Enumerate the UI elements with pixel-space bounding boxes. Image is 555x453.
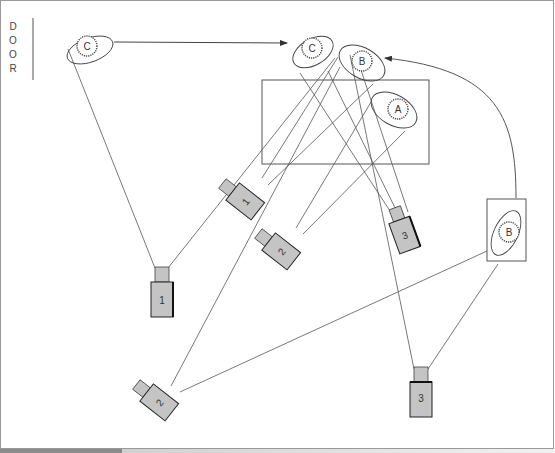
person-label: C (83, 41, 90, 52)
camera-2-angled: 2 (252, 225, 301, 270)
person-label: B (359, 56, 366, 67)
person-b-end: B (333, 38, 391, 89)
person-b-start: B (485, 206, 527, 260)
camera-lens-icon (155, 267, 169, 282)
movement-arrow-c (114, 42, 287, 43)
person-label: A (395, 104, 402, 115)
camera-label: 3 (418, 393, 424, 404)
camera-3-angled: 3 (384, 204, 420, 254)
person-c-start: C (63, 31, 116, 70)
camera-2-bottom: 2 (130, 376, 179, 421)
bottom-edge-bar (0, 449, 555, 453)
sight-lines (68, 49, 498, 392)
person-label: B (506, 227, 513, 238)
person-label: C (308, 43, 315, 54)
camera-lens-icon (414, 367, 428, 382)
camera-3-bottom: 3 (410, 367, 432, 417)
camera-1-upright: 1 (151, 267, 173, 317)
table-rectangle (262, 80, 429, 164)
camera-label: 1 (159, 295, 165, 306)
surveillance-diagram: C C B A B 1 1 2 (0, 0, 555, 453)
room-boundary (1, 1, 554, 449)
camera-1-angled: 1 (216, 175, 265, 220)
person-a: A (365, 85, 423, 136)
